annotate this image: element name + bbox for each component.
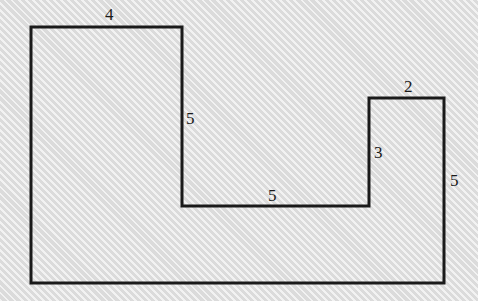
label-right-side-height: 5 <box>450 172 459 189</box>
label-middle-bottom-width: 5 <box>268 187 277 204</box>
polygon-figure <box>0 0 478 301</box>
figure-canvas: 4 5 5 3 2 5 <box>0 0 478 301</box>
label-top-left-width: 4 <box>105 6 114 23</box>
label-right-tower-left-height: 3 <box>374 144 383 161</box>
label-left-tower-right-height: 5 <box>186 110 195 127</box>
label-right-tower-top-width: 2 <box>404 78 413 95</box>
